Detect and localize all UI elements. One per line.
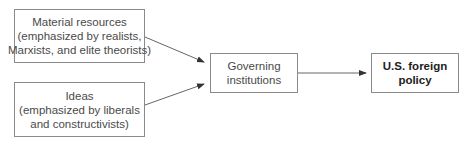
node-label: Marxists, and elite theorists) (8, 43, 151, 57)
node-label: (emphasized by realists, (18, 29, 142, 43)
node-label: policy (398, 73, 431, 87)
node-label: Ideas (65, 89, 93, 103)
arrow-material-to-governing (145, 37, 204, 62)
node-governing-institutions: Governing institutions (210, 53, 298, 93)
node-label: institutions (227, 73, 281, 87)
node-us-foreign-policy: U.S. foreign policy (371, 53, 459, 93)
node-material-resources: Material resources (emphasized by realis… (14, 9, 145, 63)
node-label: U.S. foreign (383, 59, 448, 73)
node-label: Governing (227, 59, 280, 73)
node-label: (emphasized by liberals (19, 103, 140, 117)
arrow-ideas-to-governing (145, 84, 204, 105)
node-label: Material resources (32, 15, 127, 29)
node-ideas: Ideas (emphasized by liberals and constr… (14, 82, 145, 137)
node-label: and constructivists) (30, 117, 128, 131)
